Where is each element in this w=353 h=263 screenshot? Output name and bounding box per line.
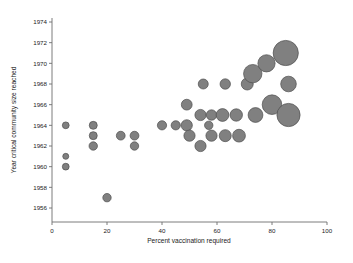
y-tick-label: 1956 xyxy=(33,204,47,211)
x-tick-label: 100 xyxy=(322,227,333,234)
y-tick-label: 1972 xyxy=(33,39,47,46)
data-point-bubble xyxy=(233,129,246,142)
data-point-bubble xyxy=(181,99,192,110)
x-tick-layer: 020406080100 xyxy=(50,222,332,234)
x-tick-label: 80 xyxy=(269,227,276,234)
data-point-bubble xyxy=(258,55,275,72)
x-axis-title: Percent vaccination required xyxy=(147,237,231,245)
data-point-bubble xyxy=(89,121,97,129)
data-point-bubble xyxy=(116,131,125,140)
data-point-bubble xyxy=(103,193,111,201)
y-tick-label: 1958 xyxy=(33,184,47,191)
data-point-bubble xyxy=(216,109,229,122)
data-point-bubble xyxy=(62,163,69,170)
data-point-bubble xyxy=(195,140,206,151)
data-point-bubble xyxy=(205,121,213,129)
bubble-chart: 020406080100 195619581960196219641966196… xyxy=(0,0,353,263)
data-point-bubble xyxy=(220,79,230,89)
y-tick-label: 1962 xyxy=(33,142,47,149)
x-tick-label: 20 xyxy=(104,227,111,234)
data-points-layer xyxy=(62,40,300,201)
y-tick-label: 1966 xyxy=(33,101,47,108)
x-tick-label: 0 xyxy=(50,227,54,234)
data-point-bubble xyxy=(89,142,97,150)
data-point-bubble xyxy=(184,130,195,141)
data-point-bubble xyxy=(157,121,166,130)
y-tick-label: 1974 xyxy=(33,18,47,25)
x-tick-label: 60 xyxy=(214,227,221,234)
data-point-bubble xyxy=(273,40,298,65)
data-point-bubble xyxy=(206,110,216,120)
data-point-bubble xyxy=(181,120,192,131)
data-point-bubble xyxy=(89,132,97,140)
y-tick-label: 1960 xyxy=(33,163,47,170)
data-point-bubble xyxy=(62,122,69,129)
y-tick-layer: 1956195819601962196419661968197019721974 xyxy=(33,18,52,211)
x-tick-label: 40 xyxy=(159,227,166,234)
data-point-bubble xyxy=(130,142,138,150)
plot-area: 020406080100 195619581960196219641966196… xyxy=(0,0,353,263)
data-point-bubble xyxy=(281,76,297,92)
data-point-bubble xyxy=(171,121,180,130)
data-point-bubble xyxy=(198,79,208,89)
data-point-bubble xyxy=(230,109,242,121)
data-point-bubble xyxy=(195,109,206,120)
data-point-bubble xyxy=(219,130,231,142)
data-point-bubble xyxy=(277,103,300,126)
data-point-bubble xyxy=(63,153,69,159)
y-tick-label: 1968 xyxy=(33,80,47,87)
y-tick-label: 1964 xyxy=(33,122,47,129)
data-point-bubble xyxy=(248,108,263,123)
data-point-bubble xyxy=(206,130,217,141)
data-point-bubble xyxy=(130,131,139,140)
y-tick-label: 1970 xyxy=(33,60,47,67)
y-axis-title: Year critical community size reached xyxy=(10,66,18,173)
